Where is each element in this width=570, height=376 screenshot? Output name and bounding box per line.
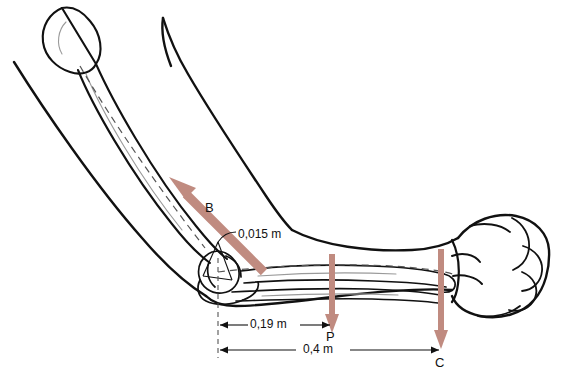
force-arrow-C bbox=[434, 249, 448, 349]
force-label-C: C bbox=[435, 355, 444, 370]
dimension-label-weight-distance: 0,19 m bbox=[250, 317, 287, 331]
force-arrow-B bbox=[169, 177, 264, 272]
dimension-label-load-distance: 0,4 m bbox=[303, 342, 333, 356]
force-label-B: B bbox=[205, 200, 214, 215]
figure-canvas: B P C 0,015 m 0,19 m 0,4 m bbox=[0, 0, 570, 376]
force-arrow-P bbox=[325, 254, 339, 333]
dimension-label-moment-arm: 0,015 m bbox=[238, 227, 281, 241]
